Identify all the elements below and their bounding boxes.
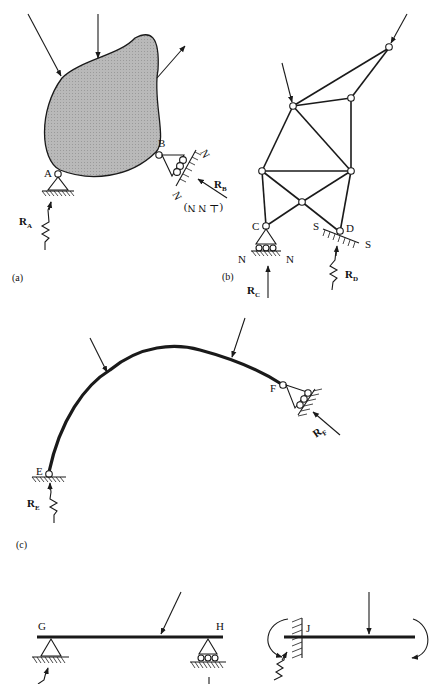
surface-label: N [170,189,184,202]
surface-label: N [198,147,212,160]
hinge-icon [156,152,162,158]
support-b: B N N RB (⊥ N N) [156,137,227,215]
reaction-label-a: RA [19,215,32,230]
spring-reaction-icon [330,250,337,290]
point-label-d: D [346,222,354,234]
point-label-c: C [252,220,259,232]
point-label-j: J [306,622,311,634]
point-label-e: E [36,465,43,477]
point-label-a: A [44,167,52,179]
force-arrow [161,592,181,634]
reaction-label-d: RD [345,268,358,283]
support-h [190,639,226,684]
panel-e: J [268,592,428,680]
reaction-label-f: RF [310,423,329,442]
caption-c: (c) [16,539,27,551]
point-label-b: B [158,137,165,149]
reaction-label-e: RE [27,497,40,512]
rigid-body [45,35,161,177]
caption-a: (a) [12,272,23,284]
force-arrow [90,338,107,372]
spring-reaction-icon [50,484,57,523]
support-f: F RF [270,382,340,442]
surface-label: S [313,220,319,232]
panel-b: C N N RC D S S RD (b) [222,14,407,299]
reaction-label-c: RC [247,284,260,299]
support-e: E RE [27,465,66,523]
support-c: C N N RC [238,220,294,299]
force-arrow [28,14,61,76]
reaction-note: (⊥ N N) [184,202,223,215]
arch-member [49,347,283,472]
panel-a: A RA B N N RB (⊥ N N) (a) [12,14,227,284]
force-arrow [232,318,245,357]
mechanics-figure: A RA B N N RB (⊥ N N) (a) [0,0,444,684]
surface-label: N [238,253,246,265]
point-label-f: F [270,382,276,394]
force-arrow [157,46,185,78]
point-label-h: H [216,620,224,632]
force-arrow [282,63,292,102]
force-arrow [391,14,407,43]
surface-label: S [365,238,371,250]
truss-joints [259,44,393,235]
support-a: A RA [19,167,74,250]
caption-b: (b) [222,271,234,283]
truss-members [262,48,389,232]
support-g [32,639,69,684]
point-label-g: G [38,620,46,632]
panel-d: G H [32,592,226,684]
surface-label: N [286,253,294,265]
panel-c: F RF E RE (c) [16,318,340,551]
